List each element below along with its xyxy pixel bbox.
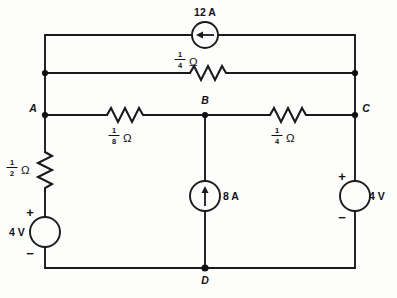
wire-top-left: [45, 35, 192, 73]
svg-text:2: 2: [10, 169, 14, 178]
node-dot-top-right: [352, 70, 358, 76]
svg-text:Ω: Ω: [123, 132, 132, 144]
svg-text:4: 4: [178, 61, 183, 70]
label-current-source-8a: 8 A: [223, 190, 239, 202]
svg-text:Ω: Ω: [286, 132, 295, 144]
svg-text:1: 1: [112, 126, 116, 135]
label-resistor-ab: 1 8 Ω: [109, 126, 133, 146]
svg-text:4: 4: [275, 137, 280, 146]
label-resistor-left-branch: 1 2 Ω: [7, 158, 31, 178]
voltage-source-left-4v: [30, 217, 60, 247]
label-current-source-12a: 12 A: [194, 6, 216, 18]
resistor-bc: [270, 108, 307, 122]
resistor-left-branch: [38, 152, 52, 192]
current-source-12a: [192, 22, 218, 48]
node-dot-c: [352, 112, 358, 118]
wire-network: [45, 35, 355, 268]
svg-text:8: 8: [112, 137, 116, 146]
svg-text:1: 1: [178, 50, 182, 59]
label-node-b: B: [201, 94, 209, 106]
resistor-top-rail: [190, 66, 227, 80]
svg-text:1: 1: [275, 126, 279, 135]
label-voltage-source-left: 4 V: [9, 226, 25, 238]
node-dot-b: [202, 112, 208, 118]
plus-sign-left-source: +: [26, 205, 34, 220]
label-resistor-top-rail: 1 4 Ω: [175, 50, 199, 70]
label-node-a: A: [28, 102, 37, 114]
label-voltage-source-right: 4 V: [369, 190, 385, 202]
svg-text:1: 1: [10, 158, 14, 167]
wire-top-right: [218, 35, 355, 73]
minus-sign-right-source: −: [338, 210, 346, 225]
voltage-source-right-4v: [340, 181, 370, 211]
node-dot-d: [201, 264, 208, 271]
label-resistor-bc: 1 4 Ω: [272, 126, 296, 146]
label-node-d: D: [201, 274, 209, 286]
node-dot-a: [42, 112, 48, 118]
svg-text:Ω: Ω: [189, 56, 198, 68]
node-dot-top-left: [42, 70, 48, 76]
circuit-schematic: 12 A 8 A 4 V + − 4 V + − A B C D 1 4 Ω 1…: [0, 0, 397, 298]
resistor-ab: [107, 108, 144, 122]
label-node-c: C: [362, 102, 370, 114]
plus-sign-right-source: +: [338, 169, 346, 184]
circuit-diagram-canvas: 12 A 8 A 4 V + − 4 V + − A B C D 1 4 Ω 1…: [0, 0, 397, 298]
current-source-8a: [190, 181, 220, 211]
minus-sign-left-source: −: [26, 246, 34, 261]
svg-text:Ω: Ω: [21, 164, 30, 176]
